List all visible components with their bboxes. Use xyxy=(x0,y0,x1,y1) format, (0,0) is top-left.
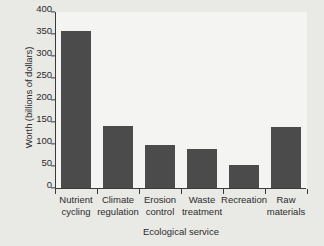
y-tick-label: 250 xyxy=(36,69,52,80)
x-tick-label: Erosioncontrol xyxy=(144,194,176,217)
x-tick-mark xyxy=(307,189,308,194)
x-tick-label-line: Nutrient xyxy=(59,194,92,206)
x-tick-label-line: Climate xyxy=(97,194,139,206)
y-tick-label: 100 xyxy=(36,135,52,146)
x-tick-mark xyxy=(97,189,98,194)
x-axis-title: Ecological service xyxy=(55,226,307,237)
bar xyxy=(229,165,259,188)
bar xyxy=(103,126,133,188)
x-tick-mark xyxy=(223,189,224,194)
x-tick-label: Rawmaterials xyxy=(267,194,306,217)
y-tick-label: 350 xyxy=(36,25,52,36)
x-tick-label: Wastetreatment xyxy=(182,194,222,217)
x-tick-label-line: regulation xyxy=(97,206,139,218)
y-tick-label: 150 xyxy=(36,113,52,124)
x-tick-label: Nutrientcycling xyxy=(59,194,92,217)
x-tick-mark xyxy=(55,189,56,194)
bar xyxy=(145,145,175,188)
x-tick-label-line: Raw xyxy=(267,194,306,206)
x-tick-label-line: Erosion xyxy=(144,194,176,206)
bar xyxy=(187,149,217,188)
y-tick-label: 400 xyxy=(36,3,52,14)
bar xyxy=(61,31,91,188)
x-tick-label-line: Waste xyxy=(182,194,222,206)
x-tick-label-line: treatment xyxy=(182,206,222,218)
bars-container xyxy=(55,12,307,188)
y-axis-tick-labels: 050100150200250300350400 xyxy=(24,8,52,188)
x-tick-mark xyxy=(265,189,266,194)
y-tick-label: 300 xyxy=(36,47,52,58)
bar xyxy=(271,127,301,188)
x-tick-label-line: Recreation xyxy=(221,194,267,206)
x-tick-label-line: materials xyxy=(267,206,306,218)
y-axis-line xyxy=(55,12,56,189)
x-axis-tick-labels: NutrientcyclingClimateregulationErosionc… xyxy=(55,194,307,228)
x-tick-mark xyxy=(181,189,182,194)
x-tick-label: Recreation xyxy=(221,194,267,206)
x-tick-label-line: cycling xyxy=(59,206,92,218)
x-tick-mark xyxy=(139,189,140,194)
plot-area xyxy=(55,12,307,188)
x-tick-label-line: control xyxy=(144,206,176,218)
x-tick-label: Climateregulation xyxy=(97,194,139,217)
y-tick-label: 200 xyxy=(36,91,52,102)
bar-chart-figure: Worth (billions of dollars) 050100150200… xyxy=(0,0,324,246)
